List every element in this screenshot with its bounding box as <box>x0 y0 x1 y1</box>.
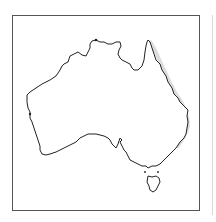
island-marker <box>95 39 98 42</box>
island-marker <box>29 113 31 115</box>
australia-map <box>0 0 216 222</box>
island-marker <box>157 171 159 173</box>
tasmania-outline <box>147 176 160 192</box>
australia-mainland-outline <box>27 40 188 168</box>
island-marker <box>144 171 146 173</box>
